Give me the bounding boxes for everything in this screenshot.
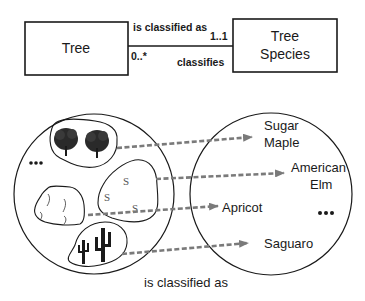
arrow-to-saguaro[interactable] xyxy=(122,243,248,254)
tree-instances-set: S S S xyxy=(14,114,174,274)
species-sugar-maple-line2: Maple xyxy=(264,135,299,150)
s-glyph: S xyxy=(123,175,129,187)
rock-crack xyxy=(63,199,66,212)
species-saguaro: Saguaro xyxy=(264,236,313,251)
arrow-to-sugar-maple[interactable] xyxy=(117,137,252,148)
species-american-elm-line1: American xyxy=(291,160,346,175)
left-multiplicity: 0..* xyxy=(131,50,148,62)
rock-crack xyxy=(47,194,50,206)
class-label-tree-species-line1: Tree xyxy=(271,28,299,44)
rock-crack xyxy=(64,216,66,224)
right-multiplicity: 1..1 xyxy=(210,30,228,42)
left-set-ellipsis xyxy=(29,161,43,165)
classification-arrows xyxy=(88,137,284,254)
diagram-canvas: Tree Tree Species is classified as 1..1 … xyxy=(0,0,365,301)
right-set-ellipsis xyxy=(318,211,334,215)
class-label-tree-species-line2: Species xyxy=(260,46,310,62)
species-set: Sugar Maple American Elm Apricot Saguaro xyxy=(190,113,352,275)
instance-caption: is classified as xyxy=(144,275,228,290)
species-apricot: Apricot xyxy=(222,200,263,215)
uml-class-diagram: Tree Tree Species is classified as 1..1 … xyxy=(25,19,337,75)
arrow-to-american-elm[interactable] xyxy=(156,173,284,179)
rock-crack xyxy=(40,212,42,220)
cactus-icon xyxy=(78,240,89,264)
species-sugar-maple-line1: Sugar xyxy=(264,118,299,133)
class-label-tree: Tree xyxy=(62,40,90,56)
association-reverse-label: classifies xyxy=(177,56,224,68)
association-forward-label: is classified as xyxy=(133,21,207,33)
s-glyph: S xyxy=(104,191,110,203)
arrow-to-apricot[interactable] xyxy=(88,206,218,215)
tree-icon xyxy=(54,128,78,156)
species-american-elm-line2: Elm xyxy=(310,177,332,192)
tree-icon xyxy=(85,130,109,158)
cactus-icon xyxy=(95,228,111,262)
rock-icon xyxy=(35,186,85,225)
